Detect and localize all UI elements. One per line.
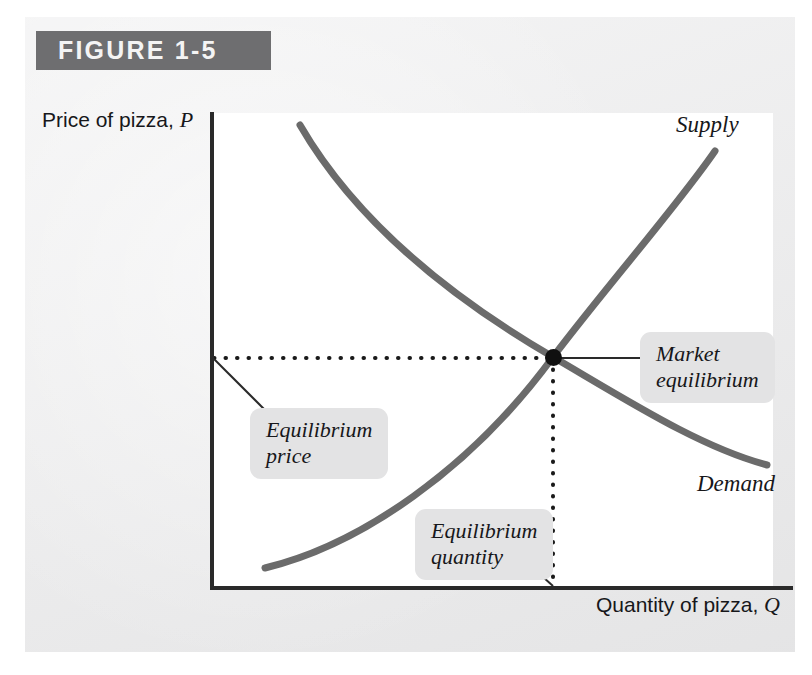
callout-equilibrium-price-line1: Equilibrium (266, 417, 372, 443)
callout-market-equilibrium-line2: equilibrium (656, 367, 759, 393)
x-axis-title: Quantity of pizza, Q (596, 592, 780, 618)
callout-equilibrium-quantity-line1: Equilibrium (431, 518, 537, 544)
x-axis-variable: Q (764, 592, 780, 617)
figure-banner: FIGURE 1-5 (36, 31, 271, 70)
y-axis-line (210, 112, 214, 590)
x-axis-line (210, 586, 793, 590)
callout-market-equilibrium-line1: Market (656, 341, 759, 367)
callout-market-equilibrium: Market equilibrium (640, 332, 775, 403)
demand-curve-label: Demand (697, 471, 775, 497)
callout-equilibrium-price: Equilibrium price (250, 408, 388, 479)
y-axis-variable: P (180, 107, 193, 132)
equilibrium-point-marker (545, 349, 562, 366)
figure-root: FIGURE 1-5 Price of pizza, P Quantity of… (0, 0, 812, 675)
supply-curve-label: Supply (676, 112, 739, 138)
x-axis-title-text: Quantity of pizza, (596, 593, 764, 616)
y-axis-title-text: Price of pizza, (42, 108, 180, 131)
callout-equilibrium-quantity: Equilibrium quantity (415, 509, 553, 580)
figure-banner-label: FIGURE 1-5 (36, 36, 218, 65)
y-axis-title: Price of pizza, P (42, 107, 193, 133)
callout-equilibrium-price-line2: price (266, 443, 372, 469)
callout-equilibrium-quantity-line2: quantity (431, 544, 537, 570)
